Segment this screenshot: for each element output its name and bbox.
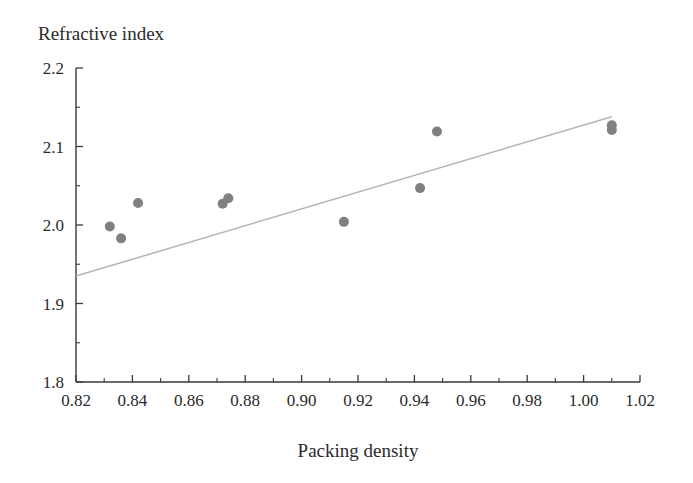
trend-line xyxy=(76,117,612,276)
data-point-marker xyxy=(223,193,233,203)
x-axis-title: Packing density xyxy=(298,440,419,461)
plot-canvas: Refractive index Packing density 1.81.92… xyxy=(0,0,693,483)
x-tick-label: 0.90 xyxy=(287,391,317,410)
x-tick-label: 0.84 xyxy=(118,391,148,410)
x-tick-label: 1.02 xyxy=(625,391,655,410)
data-point-marker xyxy=(607,125,617,135)
scatter-chart-figure: Refractive index Packing density 1.81.92… xyxy=(0,0,693,483)
y-tick-label: 1.9 xyxy=(43,295,64,314)
y-tick-label: 2.1 xyxy=(43,138,64,157)
x-tick-label: 0.96 xyxy=(456,391,486,410)
y-axis-tick-labels: 1.81.92.02.12.2 xyxy=(43,59,64,392)
data-point-marker xyxy=(339,217,349,227)
x-tick-label: 0.86 xyxy=(174,391,204,410)
y-axis-title: Refractive index xyxy=(38,23,165,44)
x-tick-label: 0.82 xyxy=(61,391,91,410)
data-point-marker xyxy=(105,222,115,232)
x-tick-label: 0.92 xyxy=(343,391,373,410)
x-tick-label: 0.88 xyxy=(230,391,260,410)
y-axis-ticks xyxy=(76,68,83,382)
data-point-marker xyxy=(415,183,425,193)
y-tick-label: 2.0 xyxy=(43,216,64,235)
data-point-marker xyxy=(116,233,126,243)
axes-lines xyxy=(76,68,640,382)
data-point-marker xyxy=(432,127,442,137)
x-tick-label: 0.94 xyxy=(400,391,430,410)
regression-line xyxy=(76,117,612,276)
y-tick-label: 1.8 xyxy=(43,373,64,392)
data-point-marker xyxy=(133,198,143,208)
y-tick-label: 2.2 xyxy=(43,59,64,78)
x-axis-ticks xyxy=(76,375,640,382)
x-axis-tick-labels: 0.820.840.860.880.900.920.940.960.981.00… xyxy=(61,391,655,410)
x-tick-label: 0.98 xyxy=(512,391,542,410)
x-tick-label: 1.00 xyxy=(569,391,599,410)
